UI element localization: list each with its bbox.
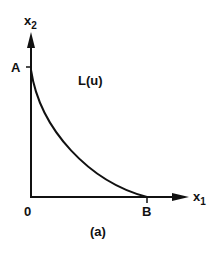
origin-label: 0 bbox=[24, 204, 31, 219]
point-a-label: A bbox=[11, 60, 21, 75]
x-axis-label: x1 bbox=[193, 189, 206, 207]
diagram-canvas: x2 x1 A B 0 L(u) (a) bbox=[0, 0, 217, 253]
x-axis-arrowhead-icon bbox=[172, 193, 189, 201]
y-axis-arrowhead-icon bbox=[27, 32, 35, 48]
figure-caption: (a) bbox=[90, 224, 106, 239]
y-axis-label: x2 bbox=[24, 13, 37, 31]
curve-label: L(u) bbox=[78, 73, 103, 88]
point-b-label: B bbox=[142, 204, 151, 219]
curve-l-u bbox=[31, 70, 147, 197]
